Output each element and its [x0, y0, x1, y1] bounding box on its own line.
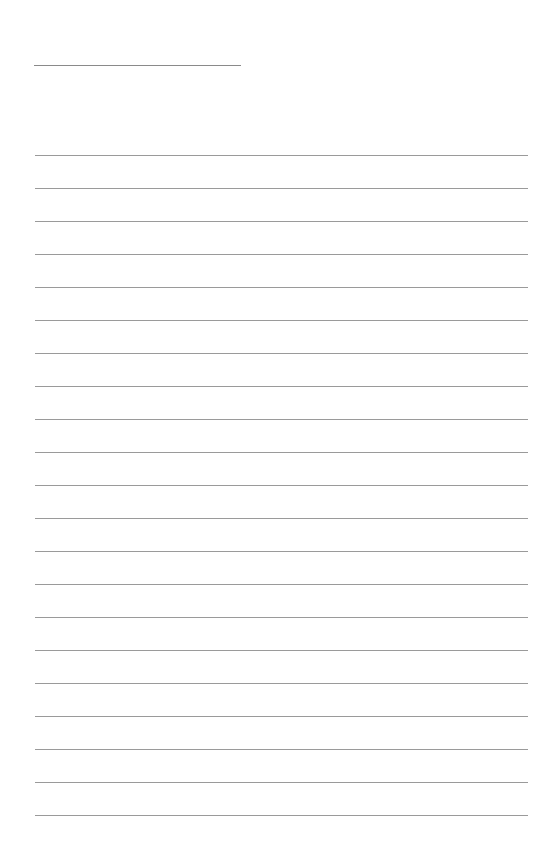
ruled-line — [35, 617, 528, 618]
ruled-lines — [0, 0, 536, 866]
ruled-line — [35, 254, 528, 255]
ruled-line — [35, 452, 528, 453]
ruled-line — [35, 584, 528, 585]
ruled-line — [35, 386, 528, 387]
ruled-line — [35, 782, 528, 783]
ruled-line — [35, 320, 528, 321]
ruled-line — [35, 518, 528, 519]
ruled-line — [35, 716, 528, 717]
ruled-line — [35, 221, 528, 222]
ruled-line — [35, 650, 528, 651]
ruled-line — [35, 188, 528, 189]
ruled-line — [35, 485, 528, 486]
ruled-line — [35, 815, 528, 816]
ruled-line — [35, 353, 528, 354]
lined-paper-page — [0, 0, 536, 866]
ruled-line — [35, 287, 528, 288]
ruled-line — [35, 419, 528, 420]
ruled-line — [35, 749, 528, 750]
ruled-line — [35, 683, 528, 684]
ruled-line — [35, 551, 528, 552]
ruled-line — [35, 155, 528, 156]
